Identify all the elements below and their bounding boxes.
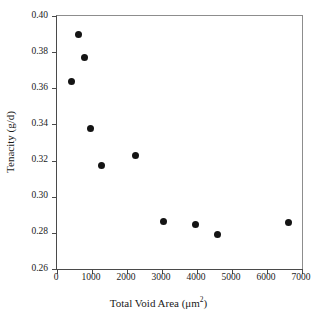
data-point	[81, 54, 88, 61]
data-point	[214, 231, 221, 238]
y-axis-tick	[52, 233, 57, 234]
data-point	[285, 219, 292, 226]
y-axis-label-container: Tenacity (g/d)	[0, 0, 20, 283]
y-axis-tick-label: 0.34	[6, 118, 48, 129]
data-point	[87, 125, 94, 132]
scatter-chart-figure: Tenacity (g/d) 0.260.280.300.320.340.360…	[0, 0, 317, 318]
data-point	[75, 31, 82, 38]
y-axis-tick-label: 0.30	[6, 190, 48, 201]
y-axis-tick	[52, 88, 57, 89]
y-axis-tick-label: 0.38	[6, 46, 48, 57]
y-axis-tick	[52, 16, 57, 17]
y-axis-tick	[52, 197, 57, 198]
y-axis-tick-label: 0.40	[6, 10, 48, 21]
data-point	[160, 218, 167, 225]
x-axis-label-base: Total Void Area (μm	[110, 297, 200, 309]
y-axis-tick	[52, 161, 57, 162]
data-point	[192, 221, 199, 228]
data-point	[68, 78, 75, 85]
plot-area	[56, 15, 303, 270]
data-point	[98, 162, 105, 169]
y-axis-tick	[52, 269, 57, 270]
y-axis-tick-label: 0.32	[6, 154, 48, 165]
y-axis-tick-label: 0.36	[6, 82, 48, 93]
y-axis-tick-label: 0.28	[6, 226, 48, 237]
x-axis-label: Total Void Area (μm2)	[0, 295, 317, 309]
x-axis-tick-label: 7000	[279, 272, 317, 283]
data-point	[132, 152, 139, 159]
x-axis-label-close: )	[204, 297, 208, 309]
y-axis-tick	[52, 124, 57, 125]
y-axis-tick	[52, 52, 57, 53]
